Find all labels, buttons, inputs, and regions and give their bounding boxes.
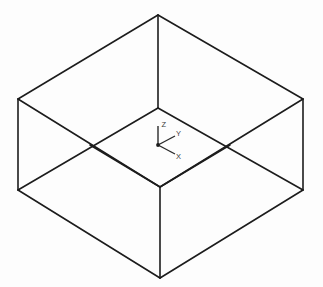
y-axis-label: Y — [176, 129, 181, 138]
edge-top-rim-back-right — [158, 15, 303, 99]
x-axis-arm — [158, 145, 175, 154]
edge-bottom-rim-front-left — [18, 190, 160, 278]
drawing-viewport: Z Y X — [0, 0, 323, 287]
y-axis-arm — [158, 136, 175, 145]
isometric-box-drawing: Z Y X — [0, 0, 323, 287]
edge-bottom-rim-back-right — [158, 108, 303, 190]
edge-bottom-rim-back-left — [18, 108, 158, 190]
edge-top-rim-back-left — [18, 15, 158, 99]
edge-bottom-rim-front-right — [160, 190, 303, 278]
z-axis-label: Z — [162, 120, 167, 129]
coordinate-axis-triad: Z Y X — [156, 120, 181, 161]
x-axis-label: X — [176, 152, 181, 161]
edge-floor-front-left — [90, 145, 160, 187]
axis-origin-dot — [156, 143, 160, 147]
